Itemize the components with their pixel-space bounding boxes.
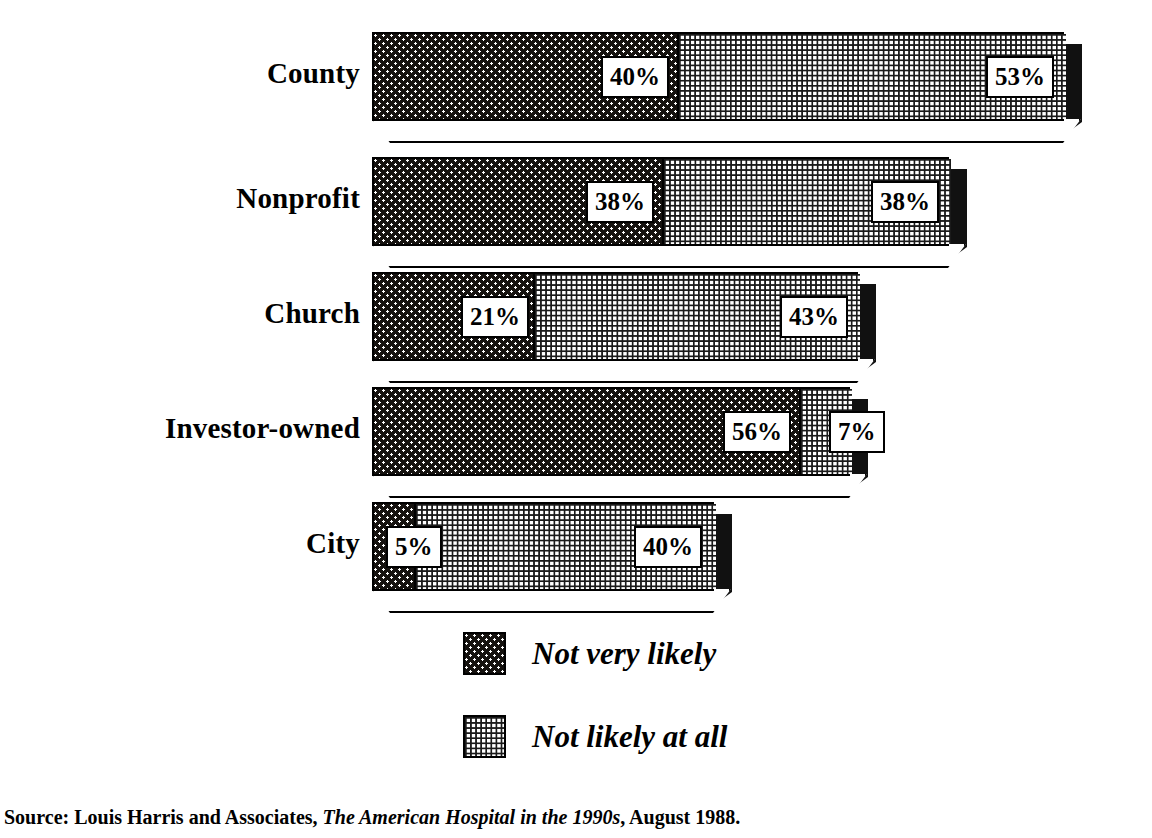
chart-plot-area: County 40% 53% Nonprofit 38% <box>0 0 1152 612</box>
value-label-county-not-likely-at-all: 53% <box>986 56 1054 98</box>
segment-not-very-likely-nonprofit: 38% <box>374 159 662 244</box>
legend-label-not-likely-at-all: Not likely at all <box>532 719 727 755</box>
bar-front-investor-owned: 56% 7% <box>372 387 850 476</box>
source-note: Source: Louis Harris and Associates, The… <box>4 806 740 829</box>
segment-not-very-likely-city: 5% <box>374 504 414 589</box>
value-label-church-not-very-likely: 21% <box>461 296 529 338</box>
source-suffix: , August 1988. <box>620 806 740 828</box>
bar-front-nonprofit: 38% 38% <box>372 157 949 246</box>
value-label-nonprofit-not-likely-at-all: 38% <box>871 181 939 223</box>
category-label-nonprofit: Nonprofit <box>0 184 360 213</box>
value-label-county-not-very-likely: 40% <box>601 56 669 98</box>
value-label-nonprofit-not-very-likely: 38% <box>586 181 654 223</box>
bar-front-church: 21% 43% <box>372 272 858 361</box>
value-label-investor-owned-not-very-likely: 56% <box>723 411 791 453</box>
category-label-investor-owned: Investor-owned <box>0 414 360 443</box>
bar-row-investor-owned: Investor-owned 56% 7% <box>0 387 1152 487</box>
legend-swatch-not-likely-at-all-icon <box>463 715 506 758</box>
bar-front-county: 40% 53% <box>372 32 1064 121</box>
source-prefix: Source: Louis Harris and Associates, <box>4 806 323 828</box>
legend-label-not-very-likely: Not very likely <box>532 636 716 672</box>
bar-bottom-face-nonprofit <box>372 244 966 268</box>
legend-item-not-very-likely: Not very likely <box>463 632 716 675</box>
segment-not-likely-at-all-investor-owned: 7% <box>799 389 852 474</box>
legend-item-not-likely-at-all: Not likely at all <box>463 715 727 758</box>
value-label-church-not-likely-at-all: 43% <box>780 296 848 338</box>
bar-row-county: County 40% 53% <box>0 32 1152 132</box>
value-label-investor-owned-not-likely-at-all: 7% <box>829 411 885 453</box>
value-label-city-not-likely-at-all: 40% <box>634 526 702 568</box>
bar-row-church: Church 21% 43% <box>0 272 1152 372</box>
segment-not-likely-at-all-city: 40% <box>414 504 716 589</box>
chart-legend: Not very likely Not likely at all <box>0 612 1152 782</box>
category-label-church: Church <box>0 299 360 328</box>
segment-not-very-likely-county: 40% <box>374 34 677 119</box>
bar-bottom-face-city <box>372 589 731 613</box>
bar-bottom-face-church <box>372 359 875 383</box>
segment-not-very-likely-church: 21% <box>374 274 533 359</box>
segment-not-likely-at-all-county: 53% <box>677 34 1066 119</box>
category-label-county: County <box>0 59 360 88</box>
bar-bottom-face-investor-owned <box>372 474 867 498</box>
segment-not-likely-at-all-nonprofit: 38% <box>662 159 951 244</box>
bar-bottom-face-county <box>372 119 1081 143</box>
bar-row-city: City 5% 40% <box>0 502 1152 602</box>
segment-not-very-likely-investor-owned: 56% <box>374 389 799 474</box>
segment-not-likely-at-all-church: 43% <box>533 274 860 359</box>
legend-swatch-not-very-likely-icon <box>463 632 506 675</box>
category-label-city: City <box>0 529 360 558</box>
bar-front-city: 5% 40% <box>372 502 714 591</box>
source-publication-title: The American Hospital in the 1990s <box>323 806 621 828</box>
value-label-city-not-very-likely: 5% <box>386 526 442 568</box>
bar-row-nonprofit: Nonprofit 38% 38% <box>0 157 1152 257</box>
